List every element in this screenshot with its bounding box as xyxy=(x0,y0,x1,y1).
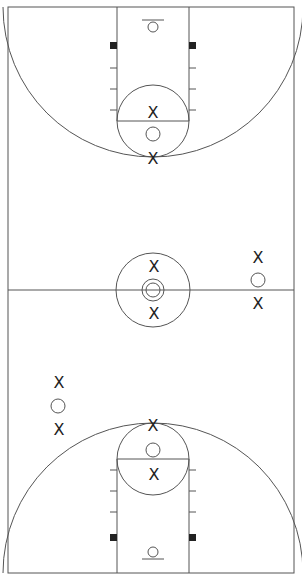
defender-x-mark: X xyxy=(253,294,264,313)
defender-x-mark: X xyxy=(149,465,160,484)
defender-x-mark: X xyxy=(54,373,65,392)
defender-x-mark: X xyxy=(149,304,160,323)
bottom-three-point-arc xyxy=(3,423,302,573)
offense-player-icon xyxy=(146,127,160,141)
top-block-mark xyxy=(189,42,196,49)
offense-player-icon xyxy=(251,273,265,287)
top-block-mark xyxy=(110,42,117,49)
defender-x-mark: X xyxy=(54,420,65,439)
basketball-court-diagram: XXXXXXXXXX xyxy=(0,0,302,578)
defender-x-mark: X xyxy=(148,149,159,168)
bottom-block-mark xyxy=(189,534,196,541)
bottom-basket-icon xyxy=(148,547,158,557)
defender-x-mark: X xyxy=(148,416,159,435)
top-three-point-arc xyxy=(3,7,302,157)
defender-x-mark: X xyxy=(253,248,264,267)
defender-x-mark: X xyxy=(148,103,159,122)
defender-x-mark: X xyxy=(149,257,160,276)
offense-player-icon xyxy=(51,399,65,413)
bottom-block-mark xyxy=(110,534,117,541)
offense-player-icon xyxy=(146,443,160,457)
top-basket-icon xyxy=(148,22,158,32)
